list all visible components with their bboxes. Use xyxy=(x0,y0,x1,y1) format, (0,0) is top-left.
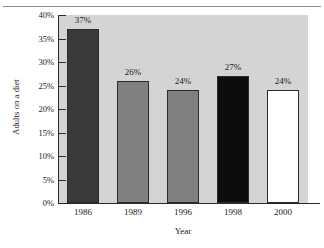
bar xyxy=(67,29,99,203)
x-axis-tick-label: 1986 xyxy=(58,208,108,217)
bar-chart-figure: Adults on a diet 0%5%10%15%20%25%30%35%4… xyxy=(0,0,324,248)
y-axis-tick-label: 35% xyxy=(18,35,54,44)
bar-value-label: 37% xyxy=(63,16,103,25)
y-axis-tick-label: 30% xyxy=(18,58,54,67)
x-axis-tick-label: 1989 xyxy=(108,208,158,217)
y-axis-tick-label: 10% xyxy=(18,152,54,161)
x-axis-title: Year xyxy=(58,226,308,236)
bar-value-label: 27% xyxy=(213,63,253,72)
bar-series xyxy=(58,15,308,203)
bar-value-label: 24% xyxy=(263,77,303,86)
y-axis-tick-label: 20% xyxy=(18,105,54,114)
bar xyxy=(167,90,199,203)
bar xyxy=(267,90,299,203)
x-axis-line xyxy=(58,203,320,204)
y-axis-tick-label: 5% xyxy=(18,176,54,185)
top-divider-rule xyxy=(3,6,321,7)
bar xyxy=(117,81,149,203)
y-axis-tick xyxy=(59,203,66,204)
x-axis-tick-label: 2000 xyxy=(258,208,308,217)
bar xyxy=(217,76,249,203)
y-axis-tick-label: 40% xyxy=(18,11,54,20)
y-axis-tick-label: 25% xyxy=(18,82,54,91)
x-axis-tick-label: 1998 xyxy=(208,208,258,217)
bar-value-label: 26% xyxy=(113,68,153,77)
y-axis-tick-label: 15% xyxy=(18,129,54,138)
x-axis-tick-label: 1996 xyxy=(158,208,208,217)
bar-value-label: 24% xyxy=(163,77,203,86)
y-axis-tick-label: 0% xyxy=(18,199,54,208)
